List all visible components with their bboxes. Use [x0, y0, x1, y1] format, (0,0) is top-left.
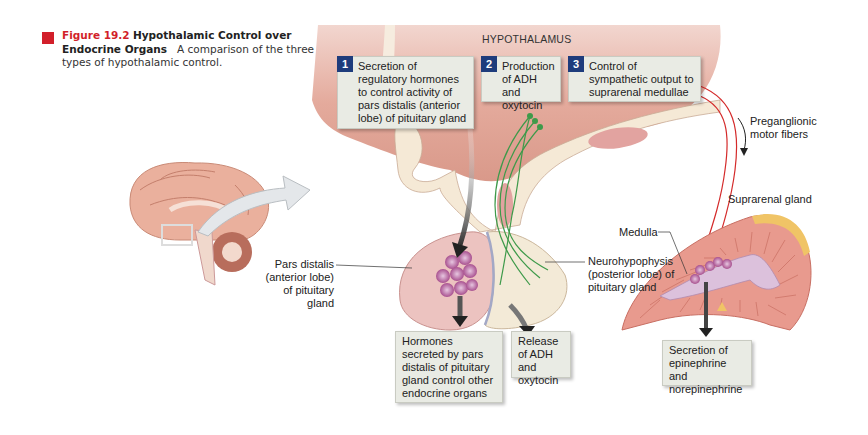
outcome-text: Secretion of epinephrine and norepinephr…: [669, 344, 745, 396]
step-badge: 1: [337, 56, 353, 72]
pars-distalis-label: Pars distalis (anterior lobe) of pituita…: [256, 258, 334, 310]
arrowhead-icon: [699, 328, 713, 337]
figure-number: Figure 19.2: [62, 29, 130, 41]
suprarenal-gland-label: Suprarenal gland: [728, 193, 812, 206]
outcome-box-anterior: Hormones secreted by pars distalis of pi…: [395, 331, 503, 403]
step-box-2: 2 Production of ADH and oxytocin: [481, 56, 561, 102]
caption-marker-icon: [42, 32, 54, 44]
preganglionic-label: Preganglionic motor fibers: [750, 115, 820, 141]
neuron-body-icon: [537, 124, 543, 130]
step-badge: 3: [568, 56, 584, 72]
outcome-text: Hormones secreted by pars distalis of pi…: [402, 335, 496, 400]
medulla-label: Medulla: [619, 226, 658, 239]
outcome-text: Release of ADH and oxytocin: [518, 335, 564, 387]
direction-arrow-icon: [738, 118, 746, 150]
leader-line: [336, 265, 412, 268]
arrowhead-icon: [740, 148, 748, 156]
outcome-box-posterior: Release of ADH and oxytocin: [511, 331, 571, 378]
neuron-body-icon: [527, 113, 533, 119]
step-box-3: 3 Control of sympathetic output to supra…: [568, 56, 701, 102]
outcome-box-medulla: Secretion of epinephrine and norepinephr…: [662, 340, 752, 386]
neuron-body-icon: [532, 118, 538, 124]
hypothalamus-label: HYPOTHALAMUS: [482, 33, 571, 45]
step-text: Control of sympathetic output to suprare…: [589, 60, 694, 99]
step-box-1: 1 Secretion of regulatory hormones to co…: [337, 56, 474, 129]
step-text: Secretion of regulatory hormones to cont…: [358, 60, 467, 125]
figure-caption: Figure 19.2 Hypothalamic Control over En…: [42, 29, 322, 70]
step-text: Production of ADH and oxytocin: [502, 60, 554, 112]
pituitary-gland: [400, 232, 567, 330]
neurohypophysis-label: Neurohypophysis (posterior lobe) of pitu…: [588, 255, 680, 294]
brain-thumbnail: [130, 162, 269, 285]
step-badge: 2: [481, 56, 497, 72]
